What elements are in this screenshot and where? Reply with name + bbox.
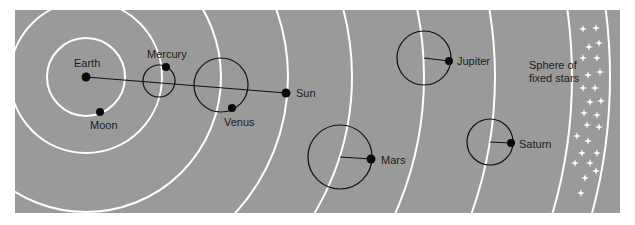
mercury-label: Mercury [147, 48, 187, 60]
jupiter-label: Jupiter [457, 55, 490, 67]
saturn-dot [507, 139, 515, 147]
mercury-dot [162, 63, 170, 71]
earth-dot [82, 73, 91, 82]
fixed-stars-label-line1: Sphere of [529, 59, 578, 71]
venus-dot [228, 104, 236, 112]
moon-dot [96, 108, 104, 116]
fixed-stars-label-line2: fixed stars [529, 72, 580, 84]
sun-dot [282, 89, 291, 98]
mars-dot [367, 155, 376, 164]
earth-label: Earth [74, 57, 100, 69]
jupiter-dot [445, 57, 453, 65]
moon-label: Moon [90, 119, 118, 131]
saturn-label: Saturn [519, 138, 551, 150]
sun-label: Sun [296, 87, 316, 99]
mars-label: Mars [381, 154, 406, 166]
venus-label: Venus [224, 116, 255, 128]
geocentric-diagram: Earth Moon Mercury Venus Sun Mars Jupite… [0, 0, 635, 225]
